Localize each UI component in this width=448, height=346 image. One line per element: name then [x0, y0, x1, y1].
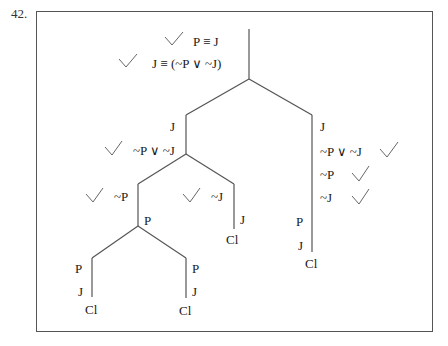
left-leaf-line-1: P	[75, 262, 82, 276]
right-leaf-line-2: J	[192, 285, 197, 299]
right-branch-line-2: ~P ∨ ~J	[320, 145, 362, 159]
right-sub-close: Cl	[226, 233, 238, 247]
branch-right-diagonal	[249, 79, 312, 115]
check-icon	[352, 166, 369, 181]
right-leaf-line-1: P	[192, 262, 199, 276]
check-marks	[86, 32, 398, 204]
right-branch-line-5: P	[296, 215, 303, 229]
left-branch-line-1: J	[170, 120, 175, 134]
right-branch-close: Cl	[305, 257, 317, 271]
right-sub-line-2: J	[240, 213, 245, 227]
check-icon	[86, 188, 103, 202]
left-sub-line-1: ~P	[114, 190, 128, 204]
left-branch-line-2: ~P ∨ ~J	[133, 144, 175, 158]
premise-2: J ≡ (~P ∨ ~J)	[152, 57, 221, 71]
branch-left-diagonal	[186, 79, 249, 115]
premise-1: P ≡ J	[193, 35, 219, 49]
check-icon	[119, 54, 137, 67]
check-icon	[183, 188, 200, 202]
right-branch-line-6: J	[298, 239, 303, 253]
left-sub-line-2: P	[144, 214, 151, 228]
sub-right-diagonal	[186, 154, 234, 184]
right-branch-line-3: ~P	[320, 168, 334, 182]
left-leaf-line-2: J	[78, 285, 83, 299]
right-leaf-close: Cl	[179, 304, 191, 318]
truth-tree-branches	[0, 0, 448, 346]
right-sub-line-1: ~J	[211, 190, 223, 204]
check-icon	[165, 32, 183, 45]
right-branch-line-1: J	[320, 120, 325, 134]
leaf-left-diagonal	[92, 226, 138, 258]
sub-left-diagonal	[138, 154, 186, 184]
left-leaf-close: Cl	[85, 303, 97, 317]
check-icon	[380, 142, 398, 157]
right-branch-line-4: ~J	[320, 191, 332, 205]
check-icon	[105, 141, 122, 155]
leaf-right-diagonal	[138, 226, 186, 258]
check-icon	[352, 189, 369, 204]
